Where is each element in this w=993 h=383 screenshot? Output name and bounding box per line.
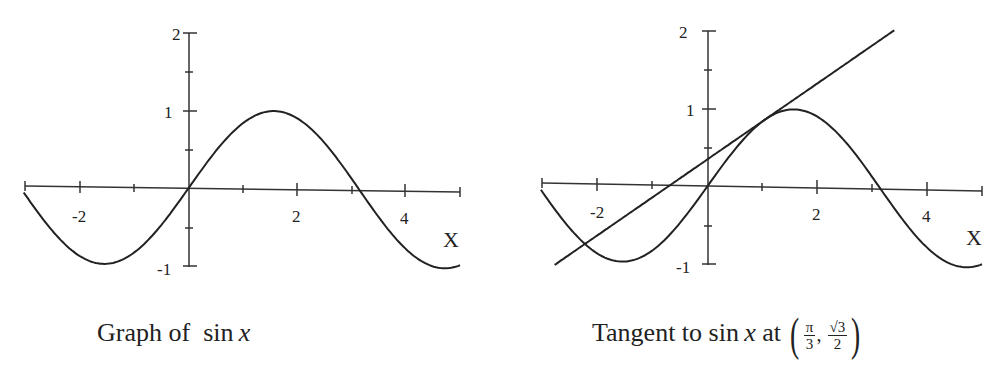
- left-paren: (: [791, 312, 800, 358]
- right-y-tick-neg1: -1: [676, 258, 690, 277]
- tangent-line: [555, 30, 895, 265]
- point-y-fraction: √32: [828, 319, 848, 352]
- left-caption-var: x: [239, 318, 251, 347]
- point-y-denominator: 2: [828, 336, 848, 352]
- point-y-numerator: √3: [828, 319, 848, 336]
- point-x-numerator: π: [804, 319, 816, 336]
- left-y-tick-2: 2: [172, 25, 181, 44]
- left-chart: 2 1 -1 -2 2 4 X: [24, 25, 460, 279]
- right-x-tick-2: 2: [812, 205, 821, 224]
- right-caption-fn: sin: [709, 318, 739, 347]
- right-y-tick-2: 2: [679, 23, 688, 42]
- left-x-tick-4: 4: [400, 209, 409, 228]
- right-x-axis-label: X: [966, 225, 982, 250]
- right-x-axis: [542, 178, 982, 196]
- left-caption-fn: sin: [203, 318, 233, 347]
- right-caption-at: at: [756, 318, 788, 347]
- right-y-tick-1: 1: [686, 101, 695, 120]
- left-y-tick-1: 1: [164, 103, 173, 122]
- left-caption-prefix: Graph of: [97, 318, 197, 347]
- left-y-axis: [183, 33, 197, 267]
- point-x-denominator: 3: [804, 336, 816, 352]
- point-x-fraction: π3: [804, 319, 816, 352]
- right-x-tick-4: 4: [922, 207, 931, 226]
- left-x-axis: [25, 181, 460, 197]
- left-x-tick-2: 2: [292, 207, 301, 226]
- right-chart: 2 1 -1 -2 2 4 X: [541, 23, 982, 277]
- right-caption-var: x: [744, 318, 756, 347]
- left-x-tick-neg2: -2: [72, 207, 86, 226]
- left-y-tick-neg1: -1: [157, 260, 171, 279]
- left-caption: Graph of sin x: [97, 318, 250, 348]
- right-caption: Tangent to sin x at (π3, √32): [592, 312, 864, 358]
- left-x-axis-label: X: [443, 227, 459, 252]
- right-x-tick-neg2: -2: [590, 203, 604, 222]
- right-paren: ): [851, 312, 860, 358]
- right-y-axis: [702, 31, 716, 265]
- plots-canvas: 2 1 -1 -2 2 4 X 2: [0, 0, 993, 300]
- right-caption-prefix: Tangent to: [592, 318, 709, 347]
